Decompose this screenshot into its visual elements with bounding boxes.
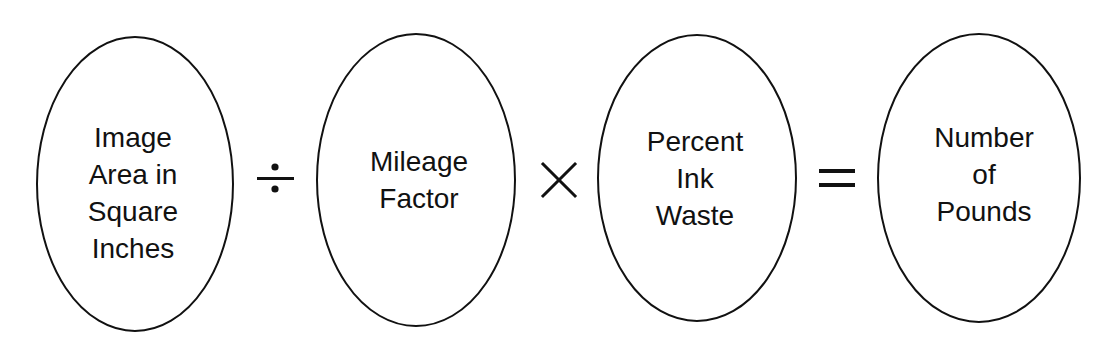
term-mileage-factor: Mileage Factor	[370, 143, 468, 217]
term-line: Area in	[88, 156, 178, 193]
term-line: Number	[934, 119, 1034, 156]
term-line: Ink	[647, 160, 744, 197]
term-line: of	[934, 156, 1034, 193]
term-number-of-pounds: Number of Pounds	[934, 119, 1034, 230]
term-line: Inches	[88, 230, 178, 267]
term-line: Image	[88, 119, 178, 156]
term-line: Square	[88, 193, 178, 230]
term-line: Percent	[647, 123, 744, 160]
multiply-icon	[543, 164, 575, 196]
ink-formula-diagram: Image Area in Square Inches Mileage Fact…	[0, 0, 1108, 342]
equals-icon	[819, 169, 855, 187]
term-percent-ink-waste: Percent Ink Waste	[647, 123, 744, 234]
term-line: Factor	[370, 180, 468, 217]
term-line: Pounds	[934, 193, 1034, 230]
term-line: Waste	[647, 197, 744, 234]
term-line: Mileage	[370, 143, 468, 180]
term-image-area: Image Area in Square Inches	[88, 119, 178, 267]
divide-icon	[257, 163, 294, 192]
